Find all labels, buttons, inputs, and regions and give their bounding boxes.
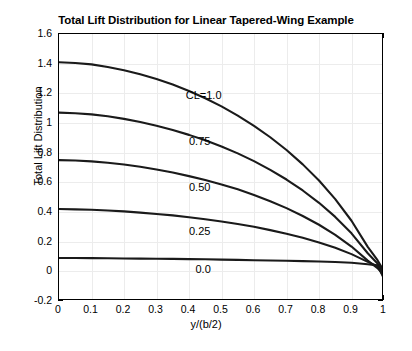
y-tick-label: 0.8 <box>6 146 52 158</box>
chart-title: Total Lift Distribution for Linear Taper… <box>0 14 412 26</box>
figure-container: Total Lift Distribution for Linear Taper… <box>0 0 412 351</box>
lift-distribution-curves <box>59 34 383 300</box>
x-axis-label: y/(b/2) <box>0 318 412 330</box>
curve-label: CL=1.0 <box>186 89 222 101</box>
y-tick-label: 0.6 <box>6 175 52 187</box>
curve-label: 0.0 <box>196 263 211 275</box>
x-tick-mark <box>383 295 384 300</box>
plot-area: CL=1.00.750.500.250.0 <box>58 33 383 300</box>
curve-label: 0.50 <box>189 181 210 193</box>
x-tick-mark <box>383 33 384 38</box>
y-tick-label: 1 <box>6 116 52 128</box>
curve-cl075 <box>59 113 383 274</box>
y-tick-label: 1.6 <box>6 27 52 39</box>
y-tick-label: 1.4 <box>6 57 52 69</box>
curve-cl025 <box>59 209 383 277</box>
curve-cl00 <box>59 258 383 279</box>
x-tick-label: 1 <box>363 303 403 315</box>
y-tick-mark <box>58 300 63 301</box>
curve-label: 0.25 <box>189 225 210 237</box>
y-tick-label: 0.4 <box>6 205 52 217</box>
y-tick-label: 1.2 <box>6 86 52 98</box>
curve-label: 0.75 <box>189 135 210 147</box>
y-tick-mark <box>378 300 383 301</box>
y-tick-label: 0 <box>6 264 52 276</box>
y-tick-label: 0.2 <box>6 235 52 247</box>
